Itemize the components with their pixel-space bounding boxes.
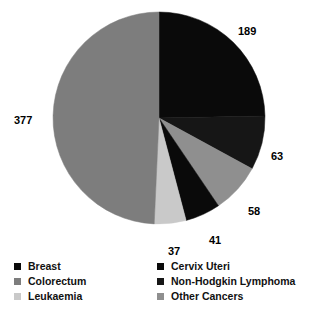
value-label-colorectum: 377 bbox=[14, 114, 32, 126]
legend-swatch-icon bbox=[14, 263, 21, 270]
value-label-other-cancers: 58 bbox=[248, 205, 260, 217]
legend-item-breast[interactable]: Breast bbox=[14, 260, 86, 273]
legend-item-label: Leukaemia bbox=[28, 291, 82, 302]
legend-column-right: Cervix UteriNon-Hodgkin LymphomaOther Ca… bbox=[157, 260, 295, 305]
legend-item-label: Colorectum bbox=[28, 276, 86, 287]
pie-slice-colorectum[interactable] bbox=[53, 12, 159, 224]
legend-column-left: BreastColorectumLeukaemia bbox=[14, 260, 86, 305]
legend-item-label: Other Cancers bbox=[171, 291, 243, 302]
legend-swatch-icon bbox=[157, 278, 164, 285]
legend-item-leukaemia[interactable]: Leukaemia bbox=[14, 290, 86, 303]
pie-chart-figure: 18963584137377 BreastColorectumLeukaemia… bbox=[0, 0, 323, 319]
legend-item-label: Breast bbox=[28, 261, 61, 272]
legend-item-cervix-uteri[interactable]: Cervix Uteri bbox=[157, 260, 295, 273]
value-label-non-hodgkin-lymphoma: 63 bbox=[271, 150, 283, 162]
value-label-cervix-uteri: 41 bbox=[209, 234, 221, 246]
legend-swatch-icon bbox=[157, 263, 164, 270]
legend-item-non-hodgkin-lymphoma[interactable]: Non-Hodgkin Lymphoma bbox=[157, 275, 295, 288]
chart-legend: BreastColorectumLeukaemia Cervix UteriNo… bbox=[0, 260, 323, 308]
legend-swatch-icon bbox=[157, 293, 164, 300]
legend-item-label: Non-Hodgkin Lymphoma bbox=[171, 276, 295, 287]
legend-item-colorectum[interactable]: Colorectum bbox=[14, 275, 86, 288]
pie-chart-plot-area: 18963584137377 bbox=[0, 0, 323, 256]
legend-item-label: Cervix Uteri bbox=[171, 261, 230, 272]
legend-swatch-icon bbox=[14, 278, 21, 285]
legend-item-other-cancers[interactable]: Other Cancers bbox=[157, 290, 295, 303]
value-label-leukaemia: 37 bbox=[168, 245, 180, 257]
legend-swatch-icon bbox=[14, 293, 21, 300]
pie-chart-svg bbox=[0, 0, 323, 256]
value-label-breast: 189 bbox=[238, 25, 256, 37]
